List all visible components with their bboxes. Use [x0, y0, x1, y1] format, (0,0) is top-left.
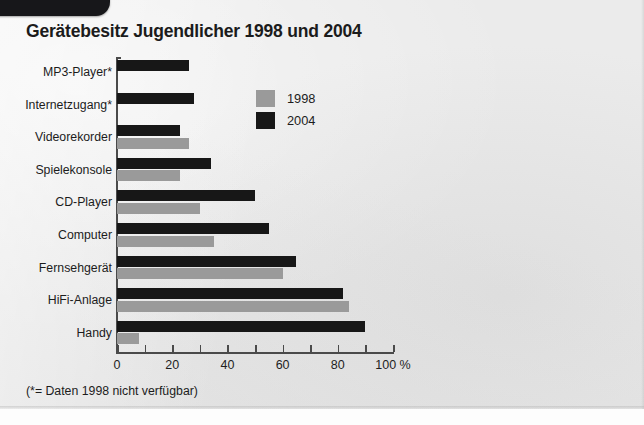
bar-2004: [117, 256, 296, 267]
legend-label-1998: 1998: [287, 91, 315, 106]
category-label: Internetzugang*: [25, 98, 112, 112]
chart-category-row: Handy: [0, 319, 644, 352]
x-axis-line: [116, 352, 394, 354]
chart-category-row: MP3-Player*: [0, 58, 644, 91]
bar-chart-plot: 020406080100 %MP3-Player*Internetzugang*…: [0, 0, 644, 409]
bar-1998: [117, 301, 349, 312]
bar-1998: [117, 138, 189, 149]
legend-swatch-1998: [256, 90, 275, 107]
bar-2004: [117, 288, 343, 299]
category-label: HiFi-Anlage: [48, 293, 112, 307]
category-label: Spielekonsole: [35, 163, 112, 177]
chart-category-row: Internetzugang*: [0, 91, 644, 124]
bar-2004: [117, 223, 269, 234]
bar-2004: [117, 158, 211, 169]
bar-2004: [117, 125, 180, 136]
chart-footnote: (*= Daten 1998 nicht verfügbar): [26, 384, 198, 398]
bar-2004: [117, 321, 365, 332]
x-axis-tick-label: 80: [331, 358, 345, 372]
bar-2004: [117, 190, 255, 201]
bar-1998: [117, 203, 200, 214]
bar-1998: [117, 268, 283, 279]
x-axis-tick-label: 40: [220, 358, 234, 372]
chart-category-row: Fernsehgerät: [0, 254, 644, 287]
category-label: MP3-Player*: [43, 65, 112, 79]
chart-category-row: Spielekonsole: [0, 156, 644, 189]
category-label: Videorekorder: [35, 130, 112, 144]
x-axis-tick-label: 20: [165, 358, 179, 372]
bar-1998: [117, 333, 139, 344]
bar-1998: [117, 170, 180, 181]
category-label: CD-Player: [55, 195, 112, 209]
category-label: Computer: [58, 228, 112, 242]
x-axis-tick-label: 60: [276, 358, 290, 372]
chart-category-row: CD-Player: [0, 188, 644, 221]
category-label: Fernsehgerät: [39, 261, 112, 275]
bar-2004: [117, 93, 194, 104]
chart-category-row: Computer: [0, 221, 644, 254]
x-axis-tick-label: 0: [114, 358, 121, 372]
bar-1998: [117, 236, 214, 247]
legend-swatch-2004: [256, 112, 275, 129]
category-label: Handy: [76, 326, 112, 340]
x-axis-tick-label: 100 %: [375, 358, 410, 372]
scanned-page: Gerätebesitz Jugendlicher 1998 und 2004 …: [0, 0, 644, 409]
chart-category-row: Videorekorder: [0, 123, 644, 156]
chart-category-row: HiFi-Anlage: [0, 286, 644, 319]
bar-2004: [117, 60, 189, 71]
legend-label-2004: 2004: [287, 113, 315, 128]
